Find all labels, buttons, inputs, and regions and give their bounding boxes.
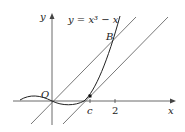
y-axis-label: y — [39, 11, 46, 22]
y-axis-arrow-icon — [50, 13, 55, 19]
cubic-curve — [20, 16, 120, 105]
tangent-point — [89, 95, 92, 98]
x-axis-arrow-icon — [170, 99, 176, 104]
secant-line — [31, 17, 136, 124]
tick-label-2: 2 — [112, 105, 118, 116]
equation-label: y = x³ − x — [67, 14, 119, 25]
point-b-label: B — [105, 31, 113, 42]
diagram: y x y = x³ − x B O c 2 — [0, 0, 185, 132]
x-axis-label: x — [168, 105, 174, 116]
origin-label: O — [41, 89, 49, 100]
tick-label-c: c — [87, 105, 93, 116]
